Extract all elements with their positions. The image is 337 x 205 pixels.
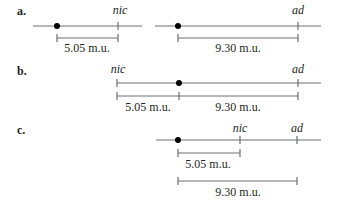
centromere-dot-b bbox=[176, 80, 182, 86]
marker-nic-b: nic bbox=[111, 62, 126, 77]
marker-nic-c: nic bbox=[233, 121, 248, 136]
distance-b2: 9.30 m.u. bbox=[215, 100, 260, 115]
marker-nic-a: nic bbox=[113, 3, 128, 18]
centromere-dot-a2 bbox=[175, 23, 181, 29]
distance-c1: 5.05 m.u. bbox=[185, 157, 230, 172]
marker-ad-c: ad bbox=[291, 121, 303, 136]
marker-ad-b: ad bbox=[292, 62, 304, 77]
centromere-dot-a1 bbox=[54, 23, 60, 29]
panel-label-a: a. bbox=[17, 4, 26, 19]
panel-label-b: b. bbox=[17, 64, 27, 79]
marker-ad-a: ad bbox=[292, 3, 304, 18]
distance-a1: 5.05 m.u. bbox=[64, 41, 109, 56]
distance-b1: 5.05 m.u. bbox=[125, 100, 170, 115]
panel-label-c: c. bbox=[17, 123, 25, 138]
distance-a2: 9.30 m.u. bbox=[215, 41, 260, 56]
centromere-dot-c bbox=[175, 137, 181, 143]
distance-c2: 9.30 m.u. bbox=[215, 185, 260, 200]
